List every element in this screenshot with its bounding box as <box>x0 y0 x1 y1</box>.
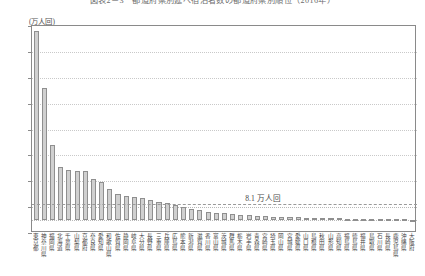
page-title: 図表2－3 都道府県別延べ宿泊者数の都道府県別順位（2016年） <box>0 0 425 6</box>
bar <box>230 214 235 220</box>
bar <box>132 197 137 220</box>
bar <box>369 219 374 221</box>
x-axis-tick-label: 福井県 <box>360 233 366 251</box>
x-axis-tick-label: 神奈川県 <box>40 233 46 257</box>
bar <box>214 213 219 221</box>
x-axis-tick-label: 新潟県 <box>188 233 194 251</box>
bar <box>263 216 268 220</box>
bar <box>222 213 227 220</box>
bar <box>328 218 333 220</box>
bar <box>99 182 104 220</box>
bar <box>320 218 325 220</box>
bar <box>410 220 415 222</box>
x-axis-tick-label: 石川県 <box>376 233 382 251</box>
x-axis-tick-label: 島根県 <box>311 233 317 251</box>
x-axis-tick-label: 奈良県 <box>89 233 95 251</box>
x-axis-tick-label: 鳥取県 <box>368 233 374 251</box>
bar <box>386 219 391 221</box>
x-axis-tick-label: 鹿児島県 <box>393 233 399 257</box>
x-axis-tick-label: 秋田県 <box>319 233 325 251</box>
x-axis-tick-label: 山口県 <box>302 233 308 251</box>
bar <box>238 215 243 220</box>
bar <box>140 198 145 220</box>
bar <box>34 31 39 220</box>
x-axis-tick-label: 京都府 <box>81 233 87 251</box>
x-axis-tick-label: 茨城県 <box>221 233 227 251</box>
bar <box>189 209 194 220</box>
x-axis-tick-label: 福岡県 <box>48 233 54 251</box>
x-axis-tick-label: 長野県 <box>147 233 153 251</box>
bar <box>345 219 350 221</box>
x-axis-tick-label: 福島県 <box>343 233 349 251</box>
x-axis-tick-label: 熊本県 <box>180 233 186 251</box>
x-axis-tick-label: 愛知県 <box>98 233 104 251</box>
x-axis-tick-label: 兵庫県 <box>163 233 169 251</box>
x-axis-tick-label: 栃木県 <box>237 233 243 251</box>
x-axis-tick-label: 山梨県 <box>73 233 79 251</box>
bar <box>353 219 358 221</box>
bar <box>247 215 252 220</box>
bar <box>58 167 63 220</box>
x-axis-tick-label: 広島県 <box>171 233 177 251</box>
bar <box>148 200 153 220</box>
bar <box>91 179 96 220</box>
x-axis-tick-label: 千葉県 <box>65 233 71 251</box>
bar <box>42 88 47 220</box>
x-axis-tick-label: 沖縄県 <box>401 233 407 251</box>
plot-area: 75065055045035025015050-50 8.1 万人回 <box>31 25 416 232</box>
bar <box>287 217 292 220</box>
x-axis-tick-label: 徳島県 <box>352 233 358 251</box>
x-axis-tick-label: 三重県 <box>155 233 161 251</box>
x-axis-tick-label: 和歌山県 <box>106 233 112 257</box>
bar <box>50 145 55 220</box>
bar <box>361 219 366 221</box>
bar <box>296 217 301 220</box>
bar <box>115 194 120 220</box>
bar <box>394 219 399 221</box>
average-line <box>32 204 417 205</box>
chart-page: 図表2－3 都道府県別延べ宿泊者数の都道府県別順位（2016年） (万人回) 7… <box>0 0 425 276</box>
x-axis-tick-label: 北海道 <box>57 233 63 251</box>
bar <box>181 207 186 220</box>
bar <box>75 171 80 220</box>
bar <box>124 196 129 220</box>
bar <box>173 205 178 220</box>
x-axis-tick-label: 長崎県 <box>384 233 390 251</box>
x-axis-tick-label: 大分県 <box>139 233 145 251</box>
x-axis-labels: 東京都神奈川県福岡県北海道千葉県山梨県京都府奈良県愛知県和歌山県佐賀県静岡県岐阜… <box>31 233 416 276</box>
x-axis-tick-label: 青森県 <box>253 233 259 251</box>
x-axis-tick-label: 東京都 <box>32 233 38 251</box>
bar <box>197 210 202 220</box>
x-axis-tick-label: 埼玉県 <box>270 233 276 251</box>
x-axis-tick-label: 愛媛県 <box>294 233 300 251</box>
bar <box>271 217 276 220</box>
bar <box>337 218 342 220</box>
bar <box>255 216 260 220</box>
average-line-label: 8.1 万人回 <box>245 192 280 203</box>
x-axis-tick-label: 高知県 <box>335 233 341 251</box>
x-axis-tick-label: 大阪府 <box>409 233 415 251</box>
bar <box>279 217 284 220</box>
x-axis-tick-label: 香川県 <box>204 233 210 251</box>
bar <box>378 219 383 221</box>
x-axis-tick-label: 岡山県 <box>278 233 284 251</box>
x-axis-tick-label: 岐阜県 <box>130 233 136 251</box>
x-axis-tick-label: 宮城県 <box>286 233 292 251</box>
x-axis-tick-label: 宮崎県 <box>261 233 267 251</box>
bar <box>66 170 71 220</box>
x-axis-tick-label: 群馬県 <box>229 233 235 251</box>
x-axis-tick-label: 山形県 <box>327 233 333 251</box>
x-axis-tick-label: 岩手県 <box>245 233 251 251</box>
bar-series <box>32 26 417 233</box>
x-axis-tick-label: 滋賀県 <box>196 233 202 251</box>
x-axis-tick-label: 静岡県 <box>122 233 128 251</box>
bar <box>312 218 317 220</box>
bar <box>165 203 170 220</box>
x-axis-tick-label: 佐賀県 <box>114 233 120 251</box>
bar <box>206 212 211 221</box>
bar <box>83 171 88 220</box>
bar <box>304 218 309 220</box>
x-axis-tick-label: 富山県 <box>212 233 218 251</box>
bar <box>402 219 407 221</box>
